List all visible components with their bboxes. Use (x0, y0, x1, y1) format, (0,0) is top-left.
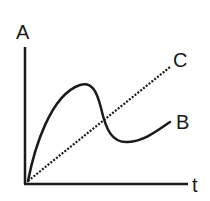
curve-c-label: C (173, 49, 187, 71)
graph-diagram: A t C B (0, 0, 210, 201)
x-axis-label: t (192, 174, 198, 196)
curve-b-label: B (176, 111, 189, 133)
y-axis-label: A (16, 21, 30, 43)
curve-c-line (28, 67, 170, 181)
curve-b-line (28, 84, 170, 181)
